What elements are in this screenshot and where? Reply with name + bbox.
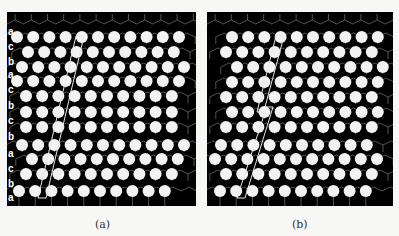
atom xyxy=(285,168,297,180)
atom xyxy=(152,46,164,58)
atom xyxy=(92,31,104,43)
atom xyxy=(269,91,281,103)
atom xyxy=(280,139,292,151)
atom xyxy=(372,106,384,118)
atom xyxy=(16,61,28,73)
atom xyxy=(226,31,238,43)
atom xyxy=(124,31,136,43)
atom xyxy=(252,91,264,103)
atom xyxy=(16,139,28,151)
atom xyxy=(38,46,50,58)
atom xyxy=(143,185,155,197)
atom xyxy=(162,139,174,151)
atom xyxy=(101,121,113,133)
atom xyxy=(226,106,238,118)
stacking-label: c xyxy=(8,164,14,174)
atom xyxy=(76,31,88,43)
atom xyxy=(339,106,351,118)
atom xyxy=(150,106,162,118)
stacking-label: a xyxy=(8,193,14,203)
atom xyxy=(263,185,275,197)
atom xyxy=(323,106,335,118)
atom xyxy=(168,46,180,58)
atom xyxy=(296,139,308,151)
atom xyxy=(81,61,93,73)
atom xyxy=(27,31,39,43)
atom xyxy=(135,46,147,58)
stacking-label: a xyxy=(8,149,14,159)
atom xyxy=(361,139,373,151)
atom xyxy=(113,61,125,73)
atom xyxy=(133,121,145,133)
atom xyxy=(322,153,334,165)
atom xyxy=(220,91,232,103)
atom xyxy=(301,91,313,103)
atom xyxy=(85,106,97,118)
atom xyxy=(27,75,39,87)
atom xyxy=(220,168,232,180)
atom xyxy=(85,168,97,180)
atom xyxy=(32,61,44,73)
atom xyxy=(328,61,340,73)
atom xyxy=(133,168,145,180)
atom xyxy=(356,76,368,88)
atom xyxy=(76,75,88,87)
atom xyxy=(20,90,32,102)
atom xyxy=(241,153,253,165)
atom xyxy=(242,31,254,43)
atom xyxy=(252,46,264,58)
atom xyxy=(350,46,362,58)
atom xyxy=(20,106,32,118)
atom xyxy=(78,185,90,197)
atom xyxy=(317,91,329,103)
atom xyxy=(366,168,378,180)
atom xyxy=(119,46,131,58)
atom xyxy=(173,31,185,43)
atom xyxy=(157,31,169,43)
atom xyxy=(36,121,48,133)
atom xyxy=(275,31,287,43)
atom xyxy=(101,90,113,102)
atom xyxy=(20,168,32,180)
atom xyxy=(274,153,286,165)
atom xyxy=(279,185,291,197)
atom xyxy=(360,185,372,197)
atom xyxy=(307,76,319,88)
atom xyxy=(371,153,383,165)
atom xyxy=(60,31,72,43)
atom-layer xyxy=(11,31,190,197)
atom xyxy=(36,90,48,102)
atom xyxy=(236,121,248,133)
caption-a: (a) xyxy=(95,218,110,231)
atom xyxy=(323,76,335,88)
atom xyxy=(356,106,368,118)
atom xyxy=(372,31,384,43)
panel-a-lattice: acbacbcbacba xyxy=(7,12,196,206)
atom xyxy=(107,153,119,165)
atom xyxy=(258,31,270,43)
atom xyxy=(275,76,287,88)
atom xyxy=(103,46,115,58)
atom xyxy=(87,46,99,58)
panel-b-lattice xyxy=(207,12,393,206)
atom xyxy=(344,185,356,197)
atom xyxy=(65,61,77,73)
atom xyxy=(231,61,243,73)
atom xyxy=(162,61,174,73)
lattice-svg xyxy=(7,12,196,206)
atom xyxy=(129,139,141,151)
lattice-svg xyxy=(207,12,393,206)
atom xyxy=(285,91,297,103)
stacking-label: b xyxy=(8,132,14,142)
atom xyxy=(269,168,281,180)
atom xyxy=(54,46,66,58)
atom xyxy=(178,61,190,73)
atom xyxy=(139,153,151,165)
atom xyxy=(290,153,302,165)
caption-b: (b) xyxy=(292,218,308,231)
stacking-label: c xyxy=(8,85,14,95)
atom xyxy=(172,153,184,165)
stacking-label: c xyxy=(8,42,14,52)
atom-layer xyxy=(209,31,389,197)
atom xyxy=(146,139,158,151)
